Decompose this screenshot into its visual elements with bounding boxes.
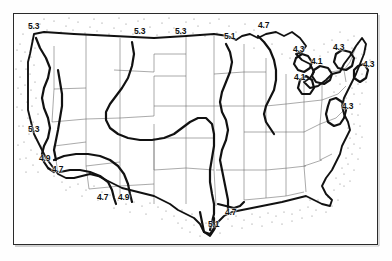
- contour-label: 4.1: [311, 56, 322, 66]
- contour-label: 5.3: [134, 26, 145, 36]
- contour-label: 4.1: [294, 72, 305, 82]
- frame-drop-shadow-bottom: [15, 245, 379, 247]
- contour-label: 4.3: [293, 44, 304, 54]
- contour-label: 5.1: [224, 31, 235, 41]
- map-drawing: [14, 14, 376, 243]
- coastal-stipple: [16, 18, 371, 237]
- contour-5-1-midwest: [220, 44, 232, 210]
- contour-label: 5.3: [28, 124, 39, 134]
- contour-label: 4.7: [52, 164, 63, 174]
- contour-label: 4.7: [97, 192, 108, 202]
- figure-page: 5.3 5.3 5.3 5.1 4.7 4.3 4.3 4.1 4.3 4.1 …: [0, 0, 392, 261]
- contour-label: 5.3: [28, 21, 39, 31]
- contour-4-7-lakes: [258, 36, 276, 134]
- map-frame: 5.3 5.3 5.3 5.1 4.7 4.3 4.3 4.1 4.3 4.1 …: [13, 13, 378, 245]
- contour-4-1-ny: [312, 66, 332, 84]
- contour-5-3-inner: [54, 70, 62, 160]
- contour-label: 4.9: [118, 192, 129, 202]
- contour-5-3-west: [36, 38, 54, 172]
- contour-label: 4.7: [258, 20, 269, 30]
- contour-label: 5.3: [175, 26, 186, 36]
- contour-label: 4.3: [333, 42, 344, 52]
- contour-label: 4.9: [39, 153, 50, 163]
- contour-label: 4.3: [363, 59, 374, 69]
- contour-label: 5.1: [208, 219, 219, 229]
- contour-label: 4.3: [342, 101, 353, 111]
- contour-label: 4.7: [225, 207, 236, 217]
- frame-drop-shadow-right: [378, 15, 380, 246]
